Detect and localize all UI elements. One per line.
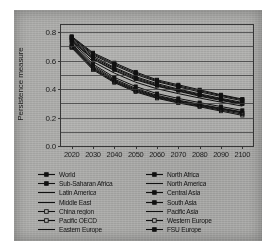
gridline (61, 46, 253, 47)
gridline (61, 75, 253, 76)
legend-swatch-icon (146, 171, 163, 178)
legend-item-label: Eastern Europe (59, 226, 102, 233)
legend-item[interactable]: Middle East (38, 198, 140, 207)
x-axis-tick-label: 2070 (171, 150, 187, 159)
chart-legend: WorldNorth AfricaSub-Saharan AfricaNorth… (38, 170, 248, 234)
legend-item[interactable]: South Asia (146, 198, 248, 207)
legend-item-label: Western Europe (167, 217, 212, 224)
series-marker (219, 94, 222, 97)
legend-swatch-icon (146, 226, 163, 233)
series-marker (91, 52, 94, 55)
y-axis-tick (58, 89, 61, 90)
series-marker (198, 94, 201, 97)
series-marker (155, 92, 158, 95)
series-marker (155, 84, 158, 87)
legend-swatch-icon (38, 199, 55, 206)
legend-item-label: North Africa (167, 171, 199, 178)
legend-item-label: North America (167, 180, 206, 187)
series-marker (113, 62, 116, 65)
x-axis-tick (200, 146, 201, 149)
y-axis-tick-label: 0.2 (45, 113, 56, 122)
x-axis-tick-label: 2040 (107, 150, 123, 159)
series-marker (113, 68, 116, 71)
legend-item[interactable]: China region (38, 207, 140, 216)
y-axis-tick (58, 118, 61, 119)
gridline (61, 32, 253, 33)
series-line (72, 44, 243, 111)
series-marker (113, 76, 116, 79)
series-marker (70, 39, 73, 42)
x-axis-tick-label: 2030 (85, 150, 101, 159)
legend-swatch-icon (146, 180, 163, 187)
legend-item[interactable]: Sub-Saharan Africa (38, 179, 140, 188)
series-marker (177, 97, 180, 100)
y-axis-tick (58, 32, 61, 33)
legend-item[interactable]: North Africa (146, 170, 248, 179)
legend-swatch-icon (38, 208, 55, 215)
x-axis-tick (157, 146, 158, 149)
x-axis-tick-label: 2080 (192, 150, 208, 159)
legend-swatch-icon (146, 189, 163, 196)
legend-item[interactable]: Central Asia (146, 188, 248, 197)
plot-area: 0.00.20.40.60.82020203020402050206020702… (60, 24, 254, 147)
y-axis-tick-label: 0.4 (45, 85, 56, 94)
series-marker (70, 36, 73, 39)
gridline (61, 89, 253, 90)
figure-panel: 0.00.20.40.60.82020203020402050206020702… (14, 10, 262, 241)
legend-item[interactable]: Pacific Asia (146, 207, 248, 216)
gridline (61, 61, 253, 62)
legend-item-label: FSU Europe (167, 226, 201, 233)
legend-item-label: Central Asia (167, 189, 200, 196)
legend-item[interactable]: Pacific OECD (38, 216, 140, 225)
series-marker (241, 98, 244, 101)
y-axis-tick-label: 0.8 (45, 28, 56, 37)
legend-swatch-icon (38, 180, 55, 187)
x-axis-tick-label: 2020 (64, 150, 80, 159)
x-axis-tick (178, 146, 179, 149)
gridline (61, 103, 253, 104)
gridline (61, 132, 253, 133)
series-lines (61, 25, 253, 146)
legend-item-label: Middle East (59, 199, 91, 206)
series-marker (134, 77, 137, 80)
x-axis-tick (221, 146, 222, 149)
x-axis-tick (93, 146, 94, 149)
legend-swatch-icon (146, 208, 163, 215)
y-axis-tick-label: 0.6 (45, 56, 56, 65)
legend-item-label: World (59, 171, 75, 178)
x-axis-tick-label: 2100 (235, 150, 251, 159)
series-marker (241, 109, 244, 112)
y-axis-tick (58, 61, 61, 62)
legend-swatch-icon (146, 217, 163, 224)
x-axis-tick (114, 146, 115, 149)
y-axis-tick (58, 146, 61, 147)
y-axis-tick-label: 0.0 (45, 142, 56, 151)
legend-item[interactable]: North America (146, 179, 248, 188)
series-marker (219, 98, 222, 101)
legend-item-label: South Asia (167, 199, 197, 206)
x-axis-tick-label: 2060 (149, 150, 165, 159)
legend-swatch-icon (38, 226, 55, 233)
series-marker (70, 42, 73, 45)
legend-item-label: China region (59, 208, 94, 215)
legend-swatch-icon (38, 217, 55, 224)
legend-item[interactable]: Latin America (38, 188, 140, 197)
legend-item[interactable]: FSU Europe (146, 225, 248, 234)
x-axis-tick-label: 2090 (213, 150, 229, 159)
legend-item-label: Latin America (59, 189, 96, 196)
series-marker (155, 79, 158, 82)
series-marker (219, 105, 222, 108)
legend-item[interactable]: Western Europe (146, 216, 248, 225)
legend-swatch-icon (146, 199, 163, 206)
y-axis-label: Persistence measure (16, 47, 25, 120)
series-marker (177, 84, 180, 87)
series-marker (134, 85, 137, 88)
x-axis-tick (242, 146, 243, 149)
gridline (61, 118, 253, 119)
legend-item-label: Pacific OECD (59, 217, 97, 224)
legend-swatch-icon (38, 171, 55, 178)
legend-item[interactable]: World (38, 170, 140, 179)
x-axis-tick (72, 146, 73, 149)
legend-item[interactable]: Eastern Europe (38, 225, 140, 234)
series-marker (91, 63, 94, 66)
